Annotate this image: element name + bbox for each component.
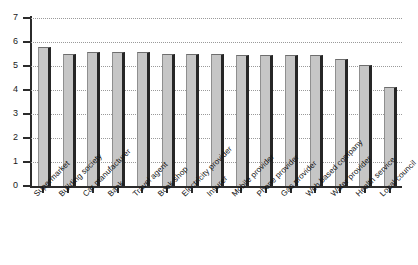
gridline [31, 42, 402, 43]
bar [38, 47, 51, 186]
y-tick-mark [23, 137, 31, 139]
y-tick-label: 0 [4, 181, 18, 190]
y-tick-mark [23, 89, 31, 91]
y-tick-mark [23, 185, 31, 187]
y-tick-mark [23, 113, 31, 115]
y-tick-label: 6 [4, 37, 18, 46]
bar [137, 52, 150, 186]
gridline [31, 18, 402, 19]
y-tick-mark [23, 161, 31, 163]
y-tick-mark [23, 17, 31, 19]
bar [186, 54, 199, 186]
y-tick-mark [23, 41, 31, 43]
y-tick-label: 5 [4, 61, 18, 70]
y-tick-label: 2 [4, 133, 18, 142]
bar [236, 55, 249, 186]
y-tick-label: 7 [4, 13, 18, 22]
y-tick-label: 3 [4, 109, 18, 118]
y-tick-label: 4 [4, 85, 18, 94]
y-tick-label: 1 [4, 157, 18, 166]
y-tick-mark [23, 65, 31, 67]
